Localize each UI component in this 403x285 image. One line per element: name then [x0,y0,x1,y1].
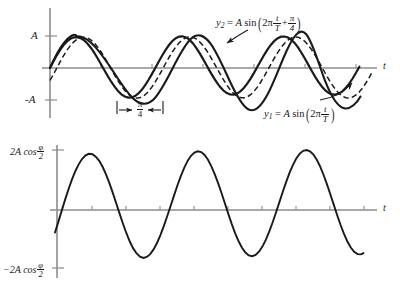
equation-y2-frac-den: T [273,24,281,33]
equation-y2-equals: = [227,17,233,28]
equation-y2: y2 = A sin(2πtT+π4) [216,14,302,34]
top-y-label-negative: -A [25,94,35,105]
bottom-y-label-positive: 2A cosφ2 [10,143,45,162]
equation-y2-coefficient: 2π [262,17,273,28]
equation-y2-phase-den: 4 [288,24,296,33]
bottom-x-axis-label: t [383,203,386,213]
bottom-y-label-negative-prefix: −2A cos [3,264,37,275]
equation-y1-frac-den: T [321,115,329,124]
phase-shift-denominator: 4 [137,110,144,119]
equation-y1: y1 = A sin(2πtT) [264,105,335,125]
equation-y1-subscript: 1 [269,112,273,121]
equation-y2-paren-open: ( [258,15,262,32]
phase-shift-value: π 4 [136,100,144,120]
equation-y1-amplitude: A [283,108,289,119]
equation-y2-paren-close: ) [297,15,301,32]
curve-resultant [55,150,364,258]
bottom-panel [50,145,377,278]
equation-y2-phase-fraction: π4 [288,14,296,34]
equation-y1-paren-close: ) [331,106,335,123]
equation-y1-time-fraction: tT [321,105,329,125]
bottom-y-label-positive-prefix: 2A cos [10,146,37,157]
bottom-y-negative-frac-den: 2 [37,270,44,279]
bottom-y-label-negative-fraction: φ2 [37,261,44,280]
equation-y2-function: sin [244,17,256,28]
equation-y1-coefficient: 2π [310,108,321,119]
top-y-label-positive: A [31,30,38,41]
top-x-axis-label: t [383,61,386,71]
equation-y1-paren-open: ( [306,106,310,123]
bottom-y-label-negative: −2A cosφ2 [3,261,45,280]
bottom-y-positive-frac-den: 2 [37,152,44,161]
equation-y2-amplitude: A [235,17,241,28]
equation-y2-time-fraction: tT [273,14,281,34]
equation-y1-function: sin [292,108,304,119]
equation-y2-plus: + [282,17,288,28]
equation-y2-subscript: 2 [221,21,225,30]
equation-y1-equals: = [275,108,281,119]
figure-container: A -A t π 4 y2 = A sin(2πtT+π4) y1 = A si… [0,0,403,285]
wave-superposition-figure [0,0,403,285]
curve-y1 [50,32,361,111]
bottom-y-label-positive-fraction: φ2 [37,143,44,162]
top-panel [42,8,377,118]
